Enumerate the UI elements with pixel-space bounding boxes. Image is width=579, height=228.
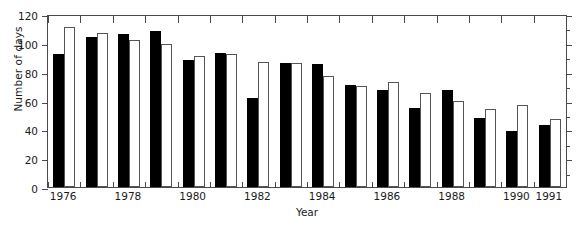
x-axis-tick-top bbox=[437, 16, 438, 23]
bar-open bbox=[258, 62, 269, 187]
x-axis-tick-top bbox=[339, 16, 340, 23]
x-axis-tick-label: 1988 bbox=[438, 190, 465, 202]
x-axis-tick-bottom bbox=[275, 182, 276, 187]
bar-group bbox=[145, 16, 177, 187]
bar-open bbox=[517, 105, 528, 187]
x-axis-tick-bottom bbox=[534, 182, 535, 187]
bar-group bbox=[404, 16, 436, 187]
y-axis-tick-label: 100 bbox=[18, 39, 38, 51]
bar-open bbox=[550, 119, 561, 187]
x-axis-tick-bottom bbox=[437, 182, 438, 187]
x-axis-tick-bottom bbox=[145, 182, 146, 187]
y-axis-minor-tick-right bbox=[566, 175, 570, 176]
bar-chart-figure: Number of days 020406080100120 197619781… bbox=[0, 0, 579, 228]
x-axis-tick-bottom bbox=[404, 182, 405, 187]
x-axis-tick-top bbox=[178, 16, 179, 23]
bar-group bbox=[307, 16, 339, 187]
x-axis-tick-labels: 197619781980198219841986198819901991 bbox=[47, 190, 567, 204]
bar-group bbox=[48, 16, 80, 187]
x-axis-tick-bottom bbox=[48, 182, 49, 187]
x-axis-tick-top bbox=[48, 16, 49, 23]
bar-group bbox=[178, 16, 210, 187]
x-axis-tick-top bbox=[242, 16, 243, 23]
bar-group bbox=[469, 16, 501, 187]
y-axis-tick-right bbox=[566, 103, 572, 104]
y-axis-tick-label: 60 bbox=[25, 97, 38, 109]
x-axis-tick-top bbox=[80, 16, 81, 23]
y-axis-tick-right bbox=[566, 131, 572, 132]
x-axis-tick-label: 1980 bbox=[179, 190, 206, 202]
bar-filled bbox=[215, 53, 226, 187]
bar-group bbox=[437, 16, 469, 187]
y-axis-tick: 60 bbox=[42, 103, 48, 104]
y-axis-tick-right bbox=[566, 74, 572, 75]
y-axis-tick: 40 bbox=[42, 131, 48, 132]
x-axis-tick-bottom bbox=[242, 182, 243, 187]
bar-open bbox=[97, 33, 108, 187]
bar-filled bbox=[506, 131, 517, 187]
bar-group bbox=[275, 16, 307, 187]
x-axis-tick-bottom bbox=[566, 182, 567, 187]
bar-filled bbox=[442, 90, 453, 187]
bar-group bbox=[242, 16, 274, 187]
y-axis-tick-label: 120 bbox=[18, 10, 38, 22]
x-axis-tick-bottom bbox=[113, 182, 114, 187]
x-axis-tick-bottom bbox=[80, 182, 81, 187]
y-axis-tick-right bbox=[566, 45, 572, 46]
x-axis-tick-top bbox=[404, 16, 405, 23]
y-axis-minor-tick-right bbox=[566, 59, 570, 60]
bar-open bbox=[388, 82, 399, 187]
x-axis-tick-bottom bbox=[469, 182, 470, 187]
cropped-caption-sliver bbox=[120, 222, 560, 228]
x-axis-tick-top bbox=[113, 16, 114, 23]
bar-filled bbox=[53, 54, 64, 187]
x-axis-tick-top bbox=[469, 16, 470, 23]
bar-filled bbox=[474, 118, 485, 187]
x-axis-tick-bottom bbox=[307, 182, 308, 187]
x-axis-tick-label: 1976 bbox=[50, 190, 77, 202]
bar-filled bbox=[539, 125, 550, 187]
bar-open bbox=[161, 44, 172, 187]
x-axis-tick-top bbox=[566, 16, 567, 23]
x-axis-tick-bottom bbox=[210, 182, 211, 187]
x-axis-tick-label: 1991 bbox=[535, 190, 562, 202]
y-axis-tick: 100 bbox=[42, 45, 48, 46]
y-axis-tick-label: 40 bbox=[25, 125, 38, 137]
x-axis-tick-top bbox=[275, 16, 276, 23]
x-axis-tick-bottom bbox=[178, 182, 179, 187]
bar-filled bbox=[86, 37, 97, 187]
bar-open bbox=[420, 93, 431, 187]
bar-filled bbox=[150, 31, 161, 187]
bar-open bbox=[64, 27, 75, 187]
x-axis-tick-label: 1984 bbox=[309, 190, 336, 202]
y-axis-tick-label: 20 bbox=[25, 154, 38, 166]
bar-group bbox=[210, 16, 242, 187]
bar-filled bbox=[377, 90, 388, 187]
x-axis-tick-label: 1990 bbox=[503, 190, 530, 202]
bar-open bbox=[129, 40, 140, 187]
bar-open bbox=[356, 86, 367, 187]
x-axis-tick-label: 1978 bbox=[115, 190, 142, 202]
bar-open bbox=[226, 54, 237, 187]
bar-groups-container bbox=[48, 16, 566, 187]
x-axis-tick-top bbox=[145, 16, 146, 23]
bar-group bbox=[372, 16, 404, 187]
y-axis-tick-right bbox=[566, 160, 572, 161]
y-axis-minor-tick-right bbox=[566, 30, 570, 31]
x-axis-tick-top bbox=[534, 16, 535, 23]
x-axis-tick-top bbox=[210, 16, 211, 23]
x-axis-tick-top bbox=[501, 16, 502, 23]
x-axis-tick-bottom bbox=[501, 182, 502, 187]
y-axis-minor-tick-right bbox=[566, 88, 570, 89]
bar-filled bbox=[247, 98, 258, 187]
bar-filled bbox=[280, 63, 291, 187]
bar-filled bbox=[118, 34, 129, 187]
bar-filled bbox=[312, 64, 323, 187]
bar-open bbox=[453, 101, 464, 188]
bar-group bbox=[534, 16, 566, 187]
bar-open bbox=[485, 109, 496, 187]
bar-group bbox=[80, 16, 112, 187]
bar-group bbox=[501, 16, 533, 187]
y-axis-minor-tick-right bbox=[566, 146, 570, 147]
y-axis-tick-label: 80 bbox=[25, 68, 38, 80]
